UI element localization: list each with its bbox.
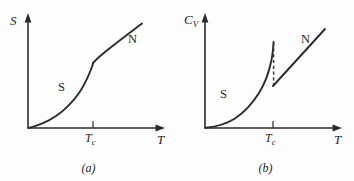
branch-label-normal-b: N <box>301 33 310 46</box>
y-axis-label-b-main: C <box>184 12 193 27</box>
x-axis-label-a-main: T <box>157 132 164 147</box>
branch-label-superconducting-b: S <box>220 88 227 101</box>
curve-superconducting-a <box>29 63 93 128</box>
branch-label-normal-a-text: N <box>128 32 137 46</box>
tc-label-a: Tc <box>85 132 95 146</box>
tc-label-a-sub: c <box>92 137 96 147</box>
branch-label-superconducting-b-text: S <box>220 87 227 101</box>
x-axis-label-a: T <box>157 133 164 146</box>
x-axis-arrow-a <box>156 125 166 132</box>
caption-b: (b) <box>177 162 354 174</box>
x-axis-arrow-b <box>333 125 343 132</box>
y-axis-label-b: CV <box>184 13 198 29</box>
curve-superconducting-b <box>206 42 274 128</box>
panel-b: CV T Tc S N (b) <box>177 0 354 181</box>
tc-label-a-main: T <box>85 131 92 145</box>
branch-label-superconducting-a: S <box>58 81 65 94</box>
tc-label-b-main: T <box>265 131 272 145</box>
curve-normal-b <box>273 29 325 86</box>
tc-label-b-sub: c <box>272 137 276 147</box>
caption-a: (a) <box>0 162 177 174</box>
branch-label-normal-b-text: N <box>301 32 310 46</box>
y-axis-label-b-sub: V <box>193 19 199 29</box>
panel-a: S T Tc S N (a) <box>0 0 177 181</box>
caption-a-text: (a) <box>82 161 96 175</box>
caption-b-text: (b) <box>259 161 273 175</box>
branch-label-normal-a: N <box>128 33 137 46</box>
y-axis-label-a: S <box>10 14 17 27</box>
tc-label-b: Tc <box>265 132 275 146</box>
figure-container: S T Tc S N (a) <box>0 0 354 181</box>
y-axis-arrow-a <box>25 13 32 23</box>
branch-label-superconducting-a-text: S <box>58 80 65 94</box>
x-axis-label-b-main: T <box>334 132 341 147</box>
x-axis-label-b: T <box>334 133 341 146</box>
y-axis-label-a-main: S <box>10 13 17 28</box>
y-axis-arrow-b <box>202 13 209 23</box>
